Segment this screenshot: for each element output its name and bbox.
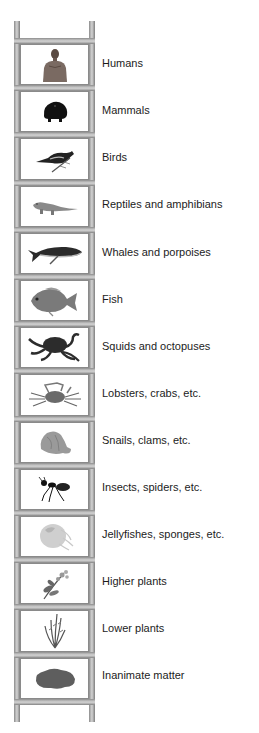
rung-label-fish: Fish — [102, 293, 123, 306]
bird-icon — [34, 144, 76, 174]
rung-label-whales-porpoises: Whales and porpoises — [102, 246, 211, 259]
rung-label-lobsters-crabs: Lobsters, crabs, etc. — [102, 387, 201, 400]
rung-label-snails-clams: Snails, clams, etc. — [102, 434, 191, 447]
rung-label-birds: Birds — [102, 151, 127, 164]
flowering-plant-icon — [38, 567, 72, 601]
rung-cell-reptiles-amphibians — [20, 186, 89, 227]
rung-cell-squids-octopuses — [20, 327, 89, 368]
jellyfish-icon — [35, 522, 75, 552]
whale-icon — [26, 242, 84, 266]
grass-plant-icon — [43, 612, 67, 650]
octopus-icon — [27, 333, 83, 363]
rung-cell-mammals — [20, 91, 89, 132]
rung-label-lower-plants: Lower plants — [102, 622, 164, 635]
reptile-icon — [31, 199, 79, 215]
ant-icon — [38, 477, 72, 503]
rung-cell-jellyfishes-sponges — [20, 516, 89, 557]
rung-cell-lobsters-crabs — [20, 374, 89, 416]
rung-label-squids-octopuses: Squids and octopuses — [102, 340, 210, 353]
rung-cell-fish — [20, 280, 89, 321]
rung-cell-birds — [20, 138, 89, 180]
rung-label-higher-plants: Higher plants — [102, 575, 167, 588]
rung-label-humans: Humans — [102, 57, 143, 70]
mammal-icon — [41, 100, 69, 124]
rung-cell-inanimate-matter — [20, 658, 89, 699]
crab-icon — [27, 381, 83, 409]
rung-cell-lower-plants — [20, 610, 89, 652]
rung-label-jellyfishes-sponges: Jellyfishes, sponges, etc. — [102, 528, 224, 541]
shell-icon — [37, 429, 73, 457]
fish-icon — [29, 285, 81, 317]
rung-cell-snails-clams — [20, 422, 89, 463]
rock-icon — [33, 667, 77, 691]
ladder-rung — [14, 699, 95, 705]
rung-cell-higher-plants — [20, 563, 89, 604]
human-icon — [40, 48, 70, 82]
rung-label-insects-spiders: Insects, spiders, etc. — [102, 481, 202, 494]
ladder-of-nature-diagram: Humans Mammals Birds Reptiles and amphib… — [0, 0, 259, 733]
rung-label-mammals: Mammals — [102, 104, 150, 117]
rung-cell-humans — [20, 44, 89, 85]
rung-cell-whales-porpoises — [20, 233, 89, 274]
rung-label-reptiles-amphibians: Reptiles and amphibians — [102, 198, 222, 211]
rung-cell-insects-spiders — [20, 469, 89, 510]
rung-label-inanimate-matter: Inanimate matter — [102, 669, 185, 682]
